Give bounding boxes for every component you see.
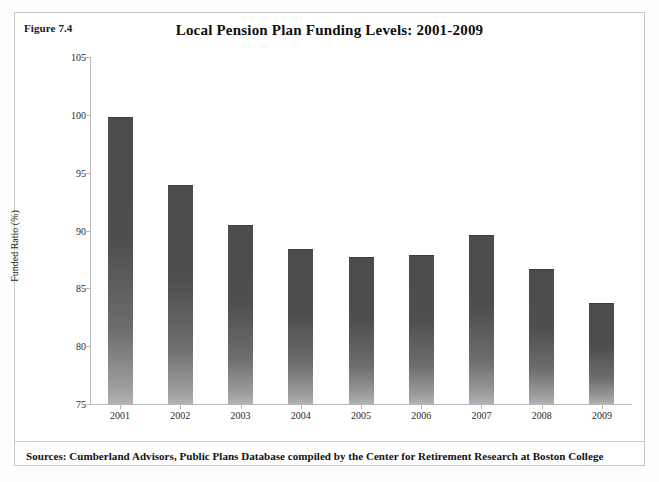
bar [349, 257, 374, 404]
bar [409, 255, 434, 404]
bar [228, 225, 253, 404]
bar [529, 269, 554, 404]
x-axis-tick-label: 2004 [271, 410, 331, 421]
bar [589, 303, 614, 404]
x-axis-tick-mark [361, 404, 362, 409]
y-axis-tick-mark [85, 231, 91, 232]
y-axis-tick-label: 85 [56, 283, 86, 294]
source-divider [15, 441, 644, 442]
y-axis-tick-mark [85, 115, 91, 116]
x-axis-tick-mark [542, 404, 543, 409]
bar [108, 117, 133, 404]
bar [288, 249, 313, 404]
y-axis-tick-mark [85, 57, 91, 58]
x-axis-tick-mark [180, 404, 181, 409]
x-axis-tick-label: 2007 [451, 410, 511, 421]
y-axis-title: Funded Ratio (%) [9, 186, 20, 306]
figure-root: Figure 7.4 Local Pension Plan Funding Le… [0, 0, 659, 482]
x-axis-tick-mark [602, 404, 603, 409]
x-axis-tick-label: 2002 [150, 410, 210, 421]
x-axis-tick-label: 2008 [512, 410, 572, 421]
x-axis-tick-label: 2009 [572, 410, 632, 421]
y-axis-tick-label: 80 [56, 341, 86, 352]
y-axis-tick-mark [85, 346, 91, 347]
x-axis-tick-mark [301, 404, 302, 409]
y-axis-tick-label: 95 [56, 167, 86, 178]
x-axis-tick-label: 2003 [211, 410, 271, 421]
y-axis-tick-mark [85, 288, 91, 289]
plot-area: Funded Ratio (%) 7580859095100105 200120… [0, 0, 659, 482]
y-axis-tick-label: 105 [56, 52, 86, 63]
x-axis-tick-mark [421, 404, 422, 409]
y-axis-tick-label: 90 [56, 225, 86, 236]
source-note: Sources: Cumberland Advisors, Public Pla… [26, 450, 603, 462]
bar [469, 235, 494, 404]
x-axis-tick-label: 2006 [391, 410, 451, 421]
x-axis-tick-mark [241, 404, 242, 409]
x-axis-tick-mark [120, 404, 121, 409]
y-axis-tick-label: 100 [56, 109, 86, 120]
x-axis-tick-label: 2005 [331, 410, 391, 421]
bar [168, 185, 193, 404]
x-axis-tick-mark [481, 404, 482, 409]
x-axis-tick-label: 2001 [90, 410, 150, 421]
y-axis-tick-label: 75 [56, 399, 86, 410]
y-axis-tick-mark [85, 173, 91, 174]
y-axis-tick-mark [85, 404, 91, 405]
